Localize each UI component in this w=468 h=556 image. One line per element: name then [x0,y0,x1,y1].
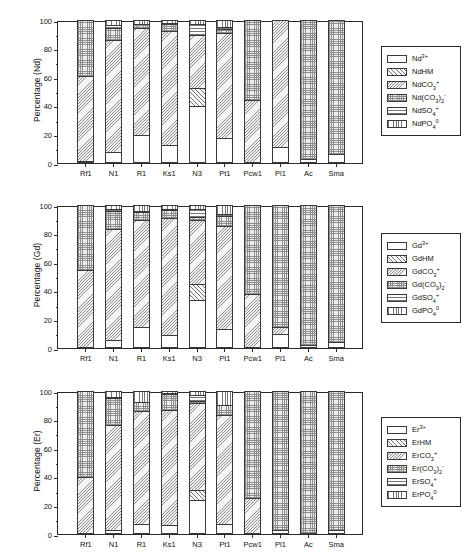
bar-segment [133,220,150,327]
x-tick-mark [308,534,309,538]
bar-segment [161,24,178,31]
y-tick-mark [54,107,58,108]
legend-item[interactable]: GdCO3+ [387,265,456,278]
bar-segment [189,391,206,395]
legend-item[interactable]: GdSO4+ [387,291,456,304]
x-tick-mark [85,534,86,538]
bar-segment [133,402,150,411]
y-tick-label: 80 [44,416,52,426]
legend-swatch-icon [387,452,407,460]
bar-segment [272,334,289,348]
y-tick-mark [54,507,58,508]
y-tick-mark [56,435,59,436]
x-tick-mark [280,163,281,167]
bar-segment [161,391,178,393]
legend-label: NdHM [412,67,433,76]
legend-item[interactable]: Gd(CO3)2- [387,278,456,291]
bar-segment [216,329,233,348]
legend-swatch-icon [387,294,407,302]
bar-segment [300,159,317,163]
legend-swatch-icon [387,81,407,89]
x-tick-mark [224,534,225,538]
legend-item[interactable]: ErHM [387,436,456,449]
legend-item[interactable]: NdSO4+ [387,104,456,117]
legend-item[interactable]: GdPO40 [387,304,456,317]
bar-segment [77,205,94,270]
bar-segment [189,490,206,500]
y-tick-mark [54,235,58,236]
legend-item[interactable]: NdHM [387,65,456,78]
bar-segment [189,106,206,163]
bar-segment [161,410,178,525]
legend-swatch-icon [387,255,407,263]
bar-segment [216,20,233,27]
legend-swatch-icon [387,242,407,250]
x-tick-mark [113,348,114,352]
y-tick-mark [56,493,59,494]
legend-item[interactable]: Nd(CO3)2- [387,91,456,104]
y-tick-mark [54,478,58,479]
bar-segment [133,205,150,211]
plot-inner: 020406080100Rf1N1R1Ks1N3Pt1Pcw1Pl1AcSma [58,22,362,163]
bar-segment [244,20,261,100]
bar-segment [216,405,233,414]
legend-label: Gd(CO3)2- [412,280,446,289]
bar-segment [216,27,233,29]
bar-segment [161,210,178,218]
bar-segment [161,335,178,348]
bar-segment [216,214,233,215]
y-tick-mark [54,536,58,537]
legend-label: Gd3+ [412,241,428,250]
bar-segment [189,300,206,348]
figure-canvas: Percentage (Nd)020406080100Rf1N1R1Ks1N3P… [0,0,468,556]
bar-segment [328,154,345,163]
bar-segment [105,20,122,25]
x-tick-mark [308,163,309,167]
legend-label: Nd3+ [412,54,428,63]
bar-segment [105,211,122,229]
y-tick-label: 100 [39,202,52,212]
legend-item[interactable]: ErCO3+ [387,449,456,462]
y-tick-mark [56,64,59,65]
chart-panel-nd: Percentage (Nd)020406080100Rf1N1R1Ks1N3P… [0,0,468,185]
legend-item[interactable]: ErSO4+ [387,475,456,488]
y-tick-mark [56,221,59,222]
x-tick-mark [141,163,142,167]
y-tick-mark [54,207,58,208]
bar-segment [133,20,150,24]
bar-segment [77,20,94,76]
legend-item[interactable]: NdCO3+ [387,78,456,91]
bar-segment [133,411,150,524]
y-tick-mark [56,464,59,465]
x-tick-mark [169,348,170,352]
bar-segment [272,391,289,530]
legend-item[interactable]: ErPO40 [387,488,456,501]
bar-segment [216,138,233,163]
bar-segment [105,25,122,28]
legend-item[interactable]: Nd3+ [387,52,456,65]
legend-label: NdCO3+ [412,80,439,89]
legend-swatch-icon [387,465,407,473]
legend-item[interactable]: GdHM [387,252,456,265]
bar-segment [300,391,317,533]
legend-label: ErSO4+ [412,477,437,486]
legend-item[interactable]: Er(CO3)2- [387,462,456,475]
bar-segment [189,88,206,106]
y-tick-mark [54,79,58,80]
legend-item[interactable]: NdPO40 [387,117,456,130]
bar-segment [105,391,122,397]
legend-item[interactable]: Er3+ [387,423,456,436]
bar-segment [216,29,233,33]
bar-segment [189,284,206,300]
y-tick-mark [54,264,58,265]
legend-swatch-icon [387,491,407,499]
x-tick-mark [141,534,142,538]
y-tick-label: 0 [48,531,52,541]
x-tick-mark [252,348,253,352]
y-tick-mark [56,150,59,151]
y-tick-label: 100 [39,388,52,398]
y-tick-label: 60 [44,445,52,455]
legend-item[interactable]: Gd3+ [387,239,456,252]
x-tick-mark [280,348,281,352]
bar-segment [244,205,261,294]
